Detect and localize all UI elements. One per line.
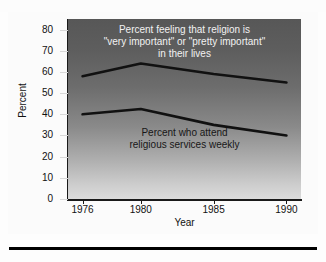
- cut-off-caption-strip: [0, 0, 326, 12]
- y-tick-0: [60, 199, 68, 200]
- lower-series-label: Percent who attend religious services we…: [68, 127, 301, 151]
- y-tick-label-30: 30: [13, 130, 53, 140]
- y-tick-label-70: 70: [13, 46, 53, 56]
- y-tick-label-20: 20: [13, 152, 53, 162]
- upper-series-label-line-3: in their lives: [68, 48, 301, 60]
- plot-area: Percent feeling that religion is "very i…: [68, 19, 301, 199]
- y-tick-80: [60, 30, 68, 31]
- x-axis-title: Year: [68, 217, 301, 228]
- y-tick-label-80: 80: [13, 25, 53, 35]
- x-tick-label-1976: 1976: [63, 204, 103, 215]
- lower-series-label-line-2: religious services weekly: [68, 139, 301, 151]
- y-tick-label-10: 10: [13, 173, 53, 183]
- upper-series-label-line-2: "very important" or "pretty important": [68, 36, 301, 48]
- y-tick-20: [60, 157, 68, 158]
- y-axis-title: Percent: [17, 71, 28, 131]
- x-tick-label-1980: 1980: [121, 204, 161, 215]
- y-tick-50: [60, 93, 68, 94]
- y-tick-30: [60, 135, 68, 136]
- y-tick-10: [60, 178, 68, 179]
- y-tick-40: [60, 114, 68, 115]
- y-tick-label-0: 0: [13, 194, 53, 204]
- y-tick-60: [60, 72, 68, 73]
- chart-figure: 01020304050607080 1976198019851990 Perce…: [0, 0, 326, 262]
- x-tick-label-1985: 1985: [194, 204, 234, 215]
- series-line-religion-important: [83, 63, 287, 82]
- bottom-divider-rule: [9, 247, 317, 250]
- lower-series-label-line-1: Percent who attend: [68, 127, 301, 139]
- upper-series-label: Percent feeling that religion is "very i…: [68, 24, 301, 60]
- x-tick-label-1990: 1990: [266, 204, 306, 215]
- y-tick-70: [60, 51, 68, 52]
- x-axis-line: [67, 199, 302, 201]
- upper-series-label-line-1: Percent feeling that religion is: [68, 24, 301, 36]
